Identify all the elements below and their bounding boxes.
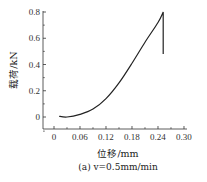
x-axis-title: 位移/mm — [97, 148, 138, 159]
x-tick-label: 0.12 — [98, 132, 114, 142]
y-tick-label: 0 — [36, 112, 41, 122]
y-tick-label: 0.8 — [29, 7, 41, 17]
y-axis-title: 载荷/kN — [8, 51, 19, 88]
x-tick-label: 0.18 — [124, 132, 140, 142]
y-tick-label: 0.6 — [29, 33, 41, 43]
y-axis-ticks: 00.20.40.60.8 — [29, 7, 46, 131]
axes — [43, 11, 187, 129]
load-curve — [59, 12, 163, 117]
x-tick-label: 0.06 — [72, 132, 88, 142]
y-tick-label: 0.4 — [29, 60, 41, 70]
x-tick-label: 0 — [52, 132, 57, 142]
chart-caption: (a) v=0.5mm/min — [78, 162, 158, 172]
x-tick-label: 0.24 — [150, 132, 166, 142]
x-axis-ticks: 00.060.120.180.240.30 — [52, 126, 193, 142]
y-tick-label: 0.2 — [29, 86, 40, 96]
x-tick-label: 0.30 — [176, 132, 192, 142]
load-displacement-chart: 00.20.40.60.8 00.060.120.180.240.30 载荷/k… — [0, 0, 207, 182]
